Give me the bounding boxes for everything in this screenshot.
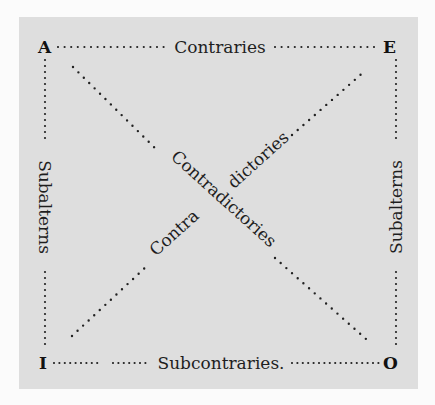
corner-label-i: I bbox=[39, 353, 47, 373]
diagonal-i-to-e-bottom-dots bbox=[72, 265, 148, 336]
edge-label-subalterns-left: Subalterns bbox=[35, 160, 55, 254]
diagonal-i-to-e-top-dots bbox=[292, 70, 366, 135]
corner-label-e: E bbox=[383, 37, 396, 57]
corner-label-a: A bbox=[37, 37, 52, 57]
corner-label-o: O bbox=[383, 353, 398, 373]
square-of-opposition-figure: A E I O Contraries Subcontraries. Subalt… bbox=[0, 0, 435, 405]
diagonal-label-contra: Contra bbox=[145, 205, 202, 260]
diagonal-a-to-o-top-dots bbox=[73, 67, 157, 150]
diagram-canvas: A E I O Contraries Subcontraries. Subalt… bbox=[0, 0, 435, 405]
diagonal-label-dictories: dictories bbox=[223, 127, 292, 192]
diagonal-a-to-o-bottom-dots bbox=[275, 258, 366, 339]
edge-label-subcontraries: Subcontraries. bbox=[157, 353, 284, 373]
edge-label-contraries: Contraries bbox=[174, 37, 266, 57]
edge-label-subalterns-right: Subalterns bbox=[386, 160, 406, 254]
